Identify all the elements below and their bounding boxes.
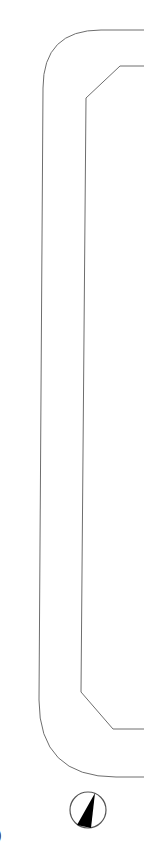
cut-off-label: ) <box>0 828 2 842</box>
inner-outline <box>81 66 144 729</box>
north-arrow-icon <box>70 792 106 828</box>
outer-outline <box>39 30 144 777</box>
floor-plan-drawing <box>0 0 144 842</box>
